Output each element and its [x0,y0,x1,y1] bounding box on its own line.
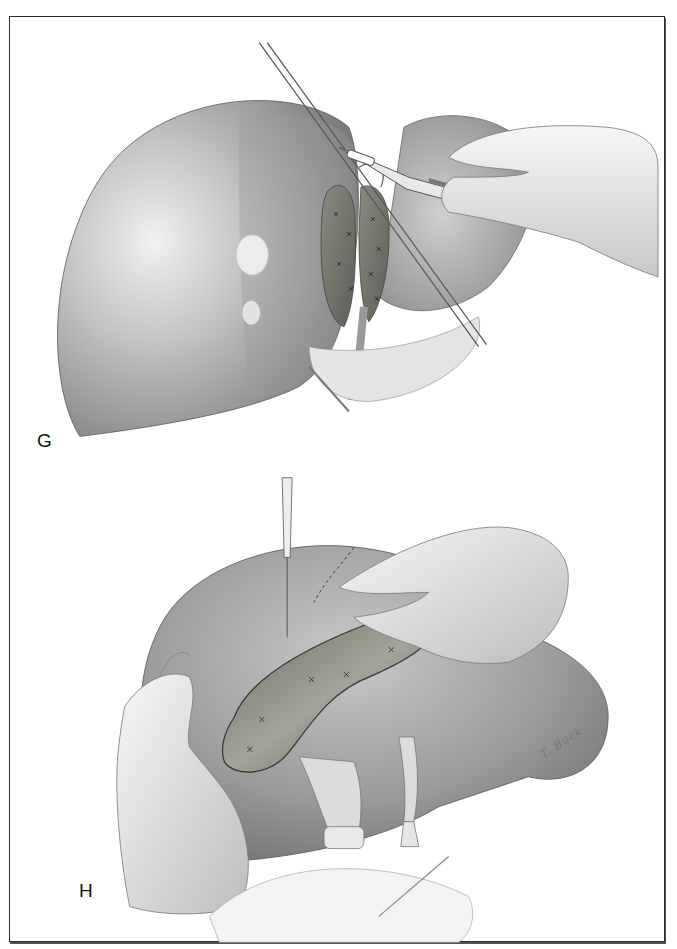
transection-surface [359,186,389,322]
panel-h: T. Buck H [10,477,664,943]
panel-label-h: H [79,880,93,902]
liver-resection-illustration-g [10,17,664,457]
tumor-nodule [236,235,268,275]
panel-label-g: G [37,430,52,452]
panel-g: G [10,17,664,457]
figure-frame: G [9,16,665,942]
tumor-nodule [242,301,260,325]
liver-resection-illustration-h [10,477,664,943]
